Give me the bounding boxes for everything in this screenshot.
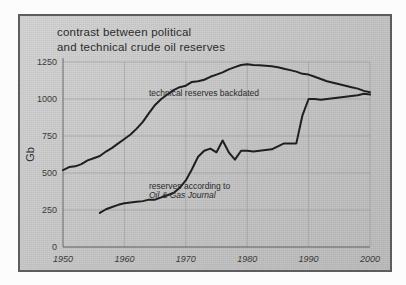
y-tick-label: 1000 [37,94,57,104]
chart-frame: contrast between political and technical… [18,14,392,272]
chart-plot: 025050075010001250 195019601970198019902… [20,16,394,274]
series-line [100,94,370,213]
y-axis-label: Gb [24,147,36,162]
x-tick-label: 1950 [53,254,73,264]
series-line [63,64,370,170]
y-tick-label: 500 [42,168,57,178]
technical-reserves-label: technical reserves backdated [149,88,259,98]
ogj-reserves-label-line2: Oil & Gas Journal [149,190,217,200]
y-tick-label: 1250 [37,57,57,67]
x-tick-label: 1980 [237,254,257,264]
x-tick-label: 1960 [114,254,134,264]
figure-container: contrast between political and technical… [0,0,406,285]
x-tick-label: 1970 [176,254,196,264]
x-tick-label: 2000 [359,254,380,264]
annotations-group: technical reserves backdatedreserves acc… [149,88,259,200]
x-tick-label: 1990 [299,254,319,264]
y-tick-labels-group: 025050075010001250 [37,57,57,252]
y-tick-label: 250 [42,205,57,215]
y-tick-label: 750 [42,131,57,141]
x-tick-labels-group: 195019601970198019902000 [53,254,380,264]
y-tick-label: 0 [52,242,57,252]
